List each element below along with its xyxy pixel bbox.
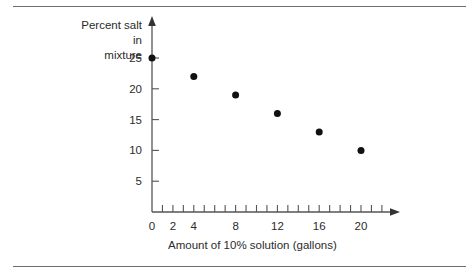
x-tick-label: 2 [163, 219, 183, 233]
x-tick-label: 12 [267, 219, 287, 233]
y-axis-label-line-2: in [34, 33, 142, 48]
x-axis [152, 208, 400, 216]
x-axis-label: Amount of 10% solution (gallons) [168, 239, 458, 251]
data-point [358, 147, 365, 154]
data-point [149, 55, 156, 62]
x-tick-label: 20 [351, 219, 371, 233]
x-tick-label: 16 [309, 219, 329, 233]
data-points-layer [149, 55, 365, 154]
y-tick-label: 15 [120, 113, 142, 127]
data-point [274, 110, 281, 117]
x-tick-label: 4 [184, 219, 204, 233]
x-tick-label: 8 [226, 219, 246, 233]
y-axis [148, 16, 156, 212]
data-point [232, 91, 239, 98]
y-axis-label-line-1: Percent salt [34, 18, 142, 33]
figure-container: Percent salt in mixture Amount of 10% so… [0, 0, 474, 277]
data-point [190, 73, 197, 80]
y-tick-label: 10 [120, 143, 142, 157]
y-tick-marks [152, 58, 159, 181]
y-tick-label: 5 [120, 174, 142, 188]
x-tick-label: 0 [142, 219, 162, 233]
y-tick-label: 25 [120, 51, 142, 65]
y-tick-label: 20 [120, 82, 142, 96]
data-point [316, 128, 323, 135]
x-tick-marks [162, 205, 381, 212]
